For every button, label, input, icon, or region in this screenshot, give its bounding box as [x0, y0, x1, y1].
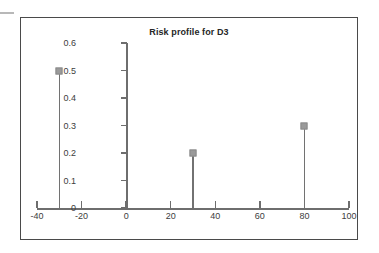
x-tick-100	[348, 201, 350, 208]
data-point-marker	[56, 67, 63, 74]
x-tick-60	[259, 201, 261, 208]
x-tick-label--40: -40	[30, 211, 43, 221]
data-point-marker	[190, 150, 197, 157]
chart-frame: Risk profile for D3 -40-20020406080100 0…	[20, 17, 358, 240]
y-tick-label-0.6: 0.6	[63, 38, 76, 48]
stem-line	[192, 153, 194, 208]
y-tick-label-0: 0	[71, 203, 76, 213]
y-tick-0.4	[121, 97, 127, 99]
y-tick-label-0.1: 0.1	[63, 176, 76, 186]
y-tick-label-0.2: 0.2	[63, 148, 76, 158]
x-tick-label-60: 60	[255, 211, 265, 221]
y-tick-0.1	[121, 180, 127, 182]
y-tick-label-0.5: 0.5	[63, 66, 76, 76]
x-tick-20	[170, 201, 172, 208]
x-tick-label-40: 40	[210, 211, 220, 221]
y-tick-label-0.3: 0.3	[63, 121, 76, 131]
x-tick-label-20: 20	[166, 211, 176, 221]
y-tick-0.5	[121, 70, 127, 72]
stem-line	[304, 126, 306, 209]
y-tick-label-0.4: 0.4	[63, 93, 76, 103]
stem-line	[59, 71, 61, 209]
x-tick-label--20: -20	[75, 211, 88, 221]
y-tick-0.2	[121, 152, 127, 154]
plot-area: -40-20020406080100 00.10.20.30.40.50.6	[21, 18, 357, 239]
x-tick-label-100: 100	[341, 211, 356, 221]
x-tick-label-80: 80	[299, 211, 309, 221]
x-tick-40	[215, 201, 217, 208]
edge-artifact-mark	[0, 12, 14, 14]
x-tick-label-0: 0	[124, 211, 129, 221]
x-axis-line	[37, 208, 349, 210]
x-tick--20	[81, 201, 83, 208]
y-tick-0.3	[121, 125, 127, 127]
y-tick-0	[121, 207, 127, 209]
x-tick--40	[36, 201, 38, 208]
y-tick-0.6	[121, 42, 127, 44]
data-point-marker	[301, 122, 308, 129]
